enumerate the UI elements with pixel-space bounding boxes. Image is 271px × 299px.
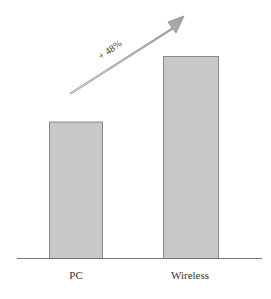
bar-chart: PC Wireless + 48%: [0, 0, 271, 299]
growth-percentage-label: + 48%: [96, 37, 124, 61]
bar-pc: [50, 122, 103, 258]
category-label-pc: PC: [69, 269, 82, 281]
bar-wireless: [164, 57, 219, 259]
category-label-wireless: Wireless: [171, 269, 209, 281]
